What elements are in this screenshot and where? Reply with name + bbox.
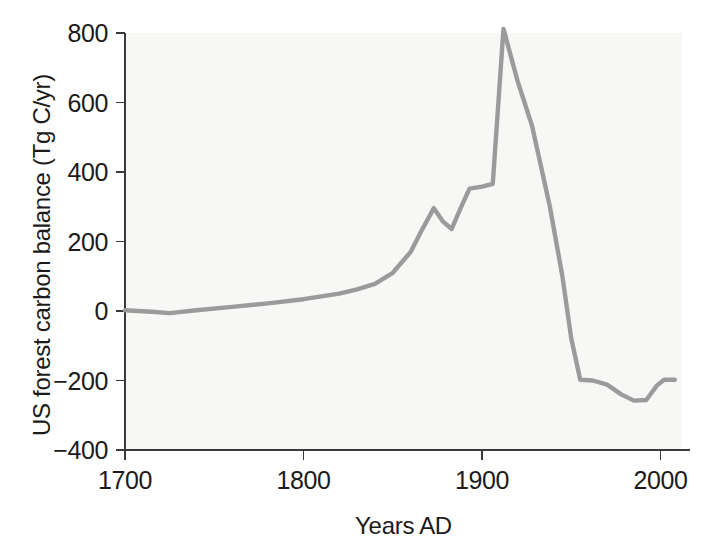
- x-axis-title: Years AD: [125, 512, 682, 540]
- x-tick-label: 1800: [277, 466, 331, 495]
- y-axis-title: US forest carbon balance (Tg C/yr): [28, 35, 56, 475]
- figure-container: 8006004002000−200−400 1700180019002000 U…: [0, 0, 709, 560]
- data-series-line: [125, 29, 675, 401]
- x-tick-label: 1700: [98, 466, 152, 495]
- axis-ticks: [116, 33, 661, 460]
- x-tick-label: 2000: [634, 466, 688, 495]
- x-tick-label: 1900: [455, 466, 509, 495]
